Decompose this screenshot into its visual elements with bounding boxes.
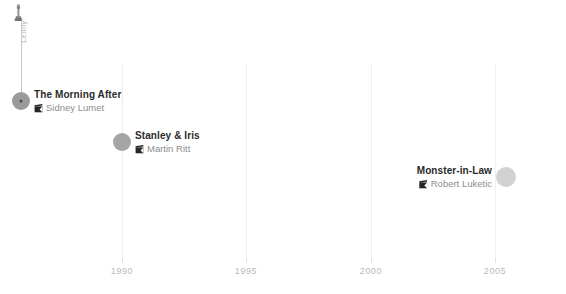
award-annotation: Lenny xyxy=(12,4,34,27)
film-marker-monster-in-law[interactable] xyxy=(496,167,516,187)
film-label-stanley-iris[interactable]: Stanley & Iris Martin Ritt xyxy=(135,130,200,155)
film-label-the-morning-after[interactable]: The Morning After Sidney Lumet xyxy=(34,89,121,114)
film-director-row: Robert Luketic xyxy=(417,178,492,190)
film-marker-stanley-iris[interactable] xyxy=(113,133,131,151)
gridline-1990 xyxy=(122,64,123,258)
film-director-row: Sidney Lumet xyxy=(34,102,121,114)
film-label-monster-in-law[interactable]: Monster-in-Law Robert Luketic xyxy=(417,165,492,190)
tick-mark-2005 xyxy=(495,258,496,263)
x-axis-tick-label: 1990 xyxy=(111,266,133,276)
timeline-chart: 1990199520002005 Lenny The Morning After… xyxy=(0,0,566,294)
film-marker-core-the-morning-after xyxy=(20,100,23,103)
clapperboard-icon xyxy=(419,178,428,190)
x-axis-tick-label: 2005 xyxy=(484,266,506,276)
x-axis-tick-label: 1995 xyxy=(235,266,257,276)
gridline-2005 xyxy=(495,64,496,258)
tick-mark-1990 xyxy=(122,258,123,263)
clapperboard-icon xyxy=(135,143,144,155)
tick-mark-2000 xyxy=(371,258,372,263)
film-director: Sidney Lumet xyxy=(46,102,104,114)
gridline-1995 xyxy=(246,64,247,258)
film-director: Robert Luketic xyxy=(431,178,492,190)
x-axis-tick-label: 2000 xyxy=(360,266,382,276)
film-director: Martin Ritt xyxy=(147,143,190,155)
tick-mark-1995 xyxy=(246,258,247,263)
clapperboard-icon xyxy=(34,102,43,114)
film-title: Stanley & Iris xyxy=(135,130,200,142)
film-title: The Morning After xyxy=(34,89,121,101)
gridline-2000 xyxy=(371,64,372,258)
film-director-row: Martin Ritt xyxy=(135,143,200,155)
award-connector-line xyxy=(21,22,22,101)
film-title: Monster-in-Law xyxy=(417,165,492,177)
